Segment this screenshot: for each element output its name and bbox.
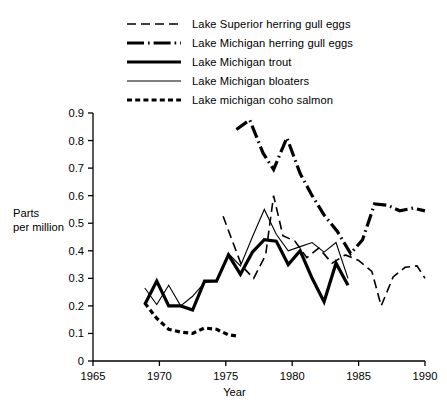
y-tick-label: 0.2 xyxy=(68,300,84,312)
y-tick-label: 0.4 xyxy=(68,245,84,257)
y-tick-label: 0.8 xyxy=(68,135,84,147)
y-tick-label: 0.1 xyxy=(68,327,84,339)
y-tick-label: 0.9 xyxy=(68,107,84,119)
y-tick-label: 0.3 xyxy=(68,272,84,284)
y-tick-label: 0.7 xyxy=(68,162,84,174)
x-tick-label: 1990 xyxy=(413,370,438,382)
x-tick-label: 1975 xyxy=(213,370,238,382)
x-tick-label: 1970 xyxy=(147,370,172,382)
series-line-1 xyxy=(236,120,425,254)
x-tick-label: 1985 xyxy=(346,370,371,382)
y-tick-label: 0.5 xyxy=(68,217,84,229)
y-tick-label: 0 xyxy=(78,355,84,367)
x-tick-label: 1965 xyxy=(81,370,106,382)
chart-figure: Lake Superior herring gull eggs Lake Mic… xyxy=(0,0,447,409)
y-tick-label: 0.6 xyxy=(68,190,84,202)
plot-area: 00.10.20.30.40.50.60.70.80.9196519701975… xyxy=(0,0,447,409)
x-tick-label: 1980 xyxy=(280,370,305,382)
